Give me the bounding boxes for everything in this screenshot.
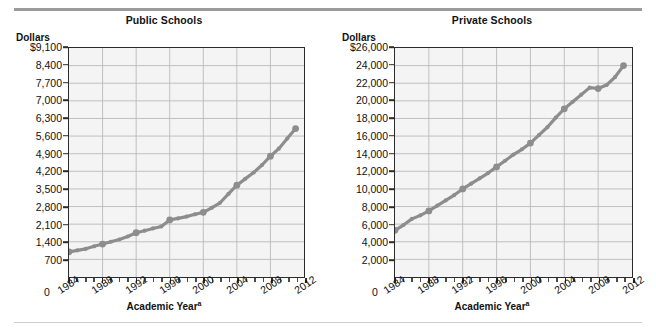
y-axis-tick-mark bbox=[63, 242, 68, 244]
y-axis-tick-mark bbox=[389, 224, 394, 226]
y-axis-tick-label: $9,100 bbox=[30, 41, 62, 53]
x-axis-tick-mark-minor bbox=[411, 278, 413, 282]
y-axis-tick-mark bbox=[389, 100, 394, 102]
y-axis-tick-label: 6,300 bbox=[36, 112, 62, 124]
y-axis-tick-label: 12,000 bbox=[356, 165, 388, 177]
data-point-marker bbox=[166, 217, 173, 224]
data-point-marker bbox=[620, 62, 627, 69]
y-axis-tick-label: 18,000 bbox=[356, 112, 388, 124]
x-axis-tick-mark-minor bbox=[119, 278, 121, 282]
figure-container: Public Schools Dollars $9,1008,4007,7007… bbox=[0, 0, 656, 331]
data-point-marker bbox=[226, 192, 230, 196]
data-point-marker bbox=[99, 241, 106, 248]
series-markers-public bbox=[69, 125, 299, 255]
y-axis-tick-label: 700 bbox=[44, 254, 62, 266]
x-axis-title-text-public: Academic Year bbox=[127, 301, 198, 312]
data-point-marker bbox=[285, 137, 289, 141]
y-axis-tick-label: 6,000 bbox=[362, 219, 388, 231]
y-axis-tick-mark bbox=[389, 82, 394, 84]
data-point-marker bbox=[545, 125, 549, 129]
y-axis-labels-public: $9,1008,4007,7007,0006,3005,6004,9004,20… bbox=[0, 47, 62, 278]
data-point-marker bbox=[200, 209, 207, 216]
y-axis-tick-mark bbox=[389, 259, 394, 261]
data-point-marker bbox=[588, 86, 592, 90]
x-axis-tick-mark-minor bbox=[616, 278, 618, 282]
series-line-private bbox=[395, 48, 632, 277]
y-axis-tick-label: 22,000 bbox=[356, 77, 388, 89]
data-point-marker bbox=[126, 234, 130, 238]
y-axis-tick-label: 2,100 bbox=[36, 219, 62, 231]
y-axis-tick-label: 2,000 bbox=[362, 254, 388, 266]
data-point-marker bbox=[109, 240, 113, 244]
data-point-marker bbox=[292, 125, 299, 132]
y-axis-tick-mark bbox=[389, 188, 394, 190]
data-point-marker bbox=[425, 208, 432, 215]
y-axis-tick-label: 4,900 bbox=[36, 148, 62, 160]
series-path-public bbox=[69, 129, 296, 252]
y-axis-tick-label: 14,000 bbox=[356, 148, 388, 160]
data-point-marker bbox=[435, 204, 439, 208]
data-point-marker bbox=[69, 248, 72, 255]
data-point-marker bbox=[233, 182, 240, 189]
data-point-marker bbox=[493, 164, 500, 171]
y-axis-tick-mark bbox=[63, 224, 68, 226]
data-point-marker bbox=[151, 226, 155, 230]
x-axis-title-text-private: Academic Year bbox=[455, 301, 526, 312]
x-axis-tick-mark-minor bbox=[254, 278, 256, 282]
data-point-marker bbox=[503, 159, 507, 163]
x-axis-tick-mark-minor bbox=[479, 278, 481, 282]
data-point-marker bbox=[117, 237, 121, 241]
y-axis-tick-mark bbox=[63, 100, 68, 102]
x-axis-title-private: Academic Yeara bbox=[328, 300, 656, 312]
data-point-marker bbox=[75, 248, 79, 252]
y-axis-tick-label: 10,000 bbox=[356, 183, 388, 195]
series-markers-private bbox=[395, 62, 627, 233]
data-point-marker bbox=[210, 206, 214, 210]
data-point-marker bbox=[277, 147, 281, 151]
data-point-marker bbox=[84, 247, 88, 251]
x-axis-tick-mark-minor bbox=[288, 278, 290, 282]
y-axis-tick-mark bbox=[63, 188, 68, 190]
data-point-marker bbox=[252, 170, 256, 174]
y-axis-tick-mark bbox=[389, 242, 394, 244]
y-axis-tick-mark bbox=[389, 153, 394, 155]
data-point-marker bbox=[243, 177, 247, 181]
data-point-marker bbox=[267, 153, 274, 160]
y-axis-tick-label: 4,000 bbox=[362, 236, 388, 248]
y-axis-tick-label: 24,000 bbox=[356, 59, 388, 71]
data-point-marker bbox=[452, 193, 456, 197]
data-point-marker bbox=[605, 83, 609, 87]
x-axis-tick-mark-minor bbox=[582, 278, 584, 282]
y-axis-tick-label: 7,000 bbox=[36, 94, 62, 106]
top-divider-rule bbox=[14, 8, 642, 11]
grid-group-public bbox=[69, 48, 304, 277]
y-axis-tick-label: 8,000 bbox=[362, 201, 388, 213]
y-axis-tick-mark bbox=[63, 259, 68, 261]
data-point-marker bbox=[595, 85, 602, 92]
data-point-marker bbox=[511, 152, 515, 156]
plot-area-private bbox=[394, 47, 633, 278]
y-axis-tick-mark bbox=[63, 206, 68, 208]
y-axis-zero-label-public: 0 bbox=[44, 286, 50, 298]
data-point-marker bbox=[527, 140, 534, 147]
y-axis-labels-private: $26,00024,00022,00020,00018,00016,00014,… bbox=[328, 47, 388, 278]
y-axis-tick-mark bbox=[63, 171, 68, 173]
data-point-marker bbox=[133, 229, 140, 236]
data-point-marker bbox=[486, 171, 490, 175]
chart-panel-public: Public Schools Dollars $9,1008,4007,7007… bbox=[0, 14, 328, 314]
plot-area-public bbox=[68, 47, 305, 278]
series-path-private bbox=[395, 66, 624, 231]
y-axis-tick-mark bbox=[389, 46, 394, 48]
data-point-marker bbox=[554, 116, 558, 120]
x-axis-title-footnote-public: a bbox=[198, 300, 202, 307]
x-axis-tick-mark-minor bbox=[445, 278, 447, 282]
data-point-marker bbox=[159, 224, 163, 228]
x-axis-tick-mark-minor bbox=[220, 278, 222, 282]
chart-title-public: Public Schools bbox=[0, 14, 328, 26]
y-axis-tick-label: 2,800 bbox=[36, 201, 62, 213]
data-point-marker bbox=[410, 217, 414, 221]
grid-group-private bbox=[395, 48, 632, 277]
y-axis-tick-mark bbox=[63, 82, 68, 84]
y-axis-tick-mark bbox=[63, 117, 68, 119]
data-point-marker bbox=[561, 105, 568, 112]
